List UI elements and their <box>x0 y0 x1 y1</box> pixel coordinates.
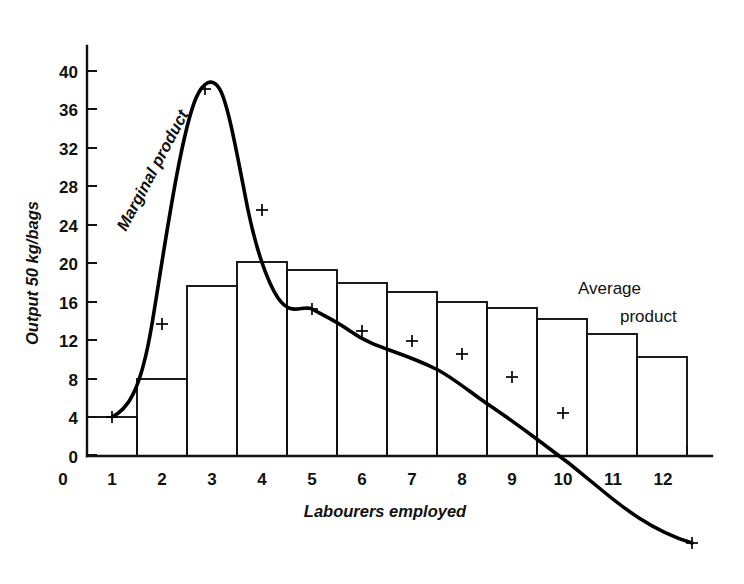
bar-3 <box>187 286 237 456</box>
y-axis-title: Output 50 kg/bags <box>23 201 41 345</box>
y-tick-label-28: 28 <box>59 178 78 197</box>
y-tick-label-4: 4 <box>69 409 79 428</box>
y-tick-label-8: 8 <box>69 371 78 390</box>
x-tick-label-5: 5 <box>307 470 316 489</box>
average-product-label-line2: product <box>620 307 677 326</box>
x-tick-label-6: 6 <box>357 470 366 489</box>
y-tick-label-20: 20 <box>59 255 78 274</box>
y-tick-label-32: 32 <box>59 140 78 159</box>
y-tick-label-36: 36 <box>59 101 78 120</box>
x-tick-label-11: 11 <box>604 470 622 489</box>
x-tick-label-10: 10 <box>554 470 573 489</box>
y-tick-marks <box>87 71 97 455</box>
bar-5 <box>287 270 337 456</box>
x-tick-label-3: 3 <box>207 470 216 489</box>
bar-4 <box>237 262 287 456</box>
bar-7 <box>387 292 437 456</box>
chart-figure: 0 4 8 12 16 20 24 28 32 36 40 0 1 2 <box>0 0 744 584</box>
x-tick-label-4: 4 <box>257 470 267 489</box>
bar-2 <box>137 379 187 456</box>
y-tick-label-40: 40 <box>59 63 78 82</box>
y-tick-label-16: 16 <box>59 294 78 313</box>
bar-8 <box>437 302 487 456</box>
marginal-product-label: Marginal product <box>113 105 192 233</box>
bar-11 <box>587 334 637 456</box>
x-tick-label-0: 0 <box>58 470 67 489</box>
x-tick-label-12: 12 <box>654 470 673 489</box>
x-tick-label-9: 9 <box>507 470 516 489</box>
bar-6 <box>337 283 387 456</box>
chart-canvas: 0 4 8 12 16 20 24 28 32 36 40 0 1 2 <box>0 0 744 584</box>
y-tick-label-0: 0 <box>69 448 78 467</box>
x-axis-title: Labourers employed <box>304 502 467 520</box>
x-tick-label-7: 7 <box>407 470 416 489</box>
average-product-label-line1: Average <box>578 279 641 298</box>
x-tick-label-1: 1 <box>107 470 116 489</box>
x-tick-label-8: 8 <box>457 470 466 489</box>
bar-12 <box>637 357 687 456</box>
y-tick-label-24: 24 <box>59 217 78 236</box>
bar-10 <box>537 319 587 456</box>
y-tick-label-12: 12 <box>59 332 78 351</box>
x-tick-label-2: 2 <box>157 470 166 489</box>
